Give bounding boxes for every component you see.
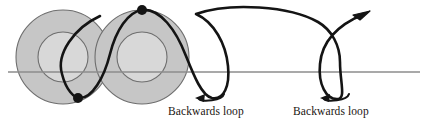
wheel-group bbox=[16, 10, 189, 104]
backwards-loop-label-right: Backwards loop bbox=[293, 105, 369, 117]
upper-point-marker bbox=[137, 5, 147, 15]
lower-point-marker bbox=[73, 93, 83, 103]
figure-container: Backwards loop Backwards loop bbox=[0, 0, 426, 134]
backwards-loop-label-left: Backwards loop bbox=[168, 105, 244, 117]
right-wheel-inner bbox=[117, 32, 167, 82]
